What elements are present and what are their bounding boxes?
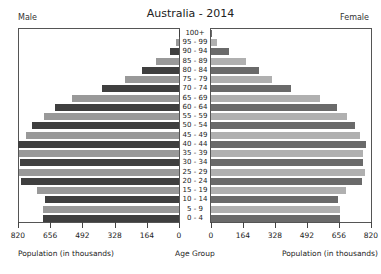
male-label: Male bbox=[18, 13, 37, 22]
male-bar bbox=[44, 113, 179, 120]
female-bar bbox=[211, 113, 347, 120]
age-group-label: 0 - 4 bbox=[180, 214, 210, 223]
age-axis-label: Age Group bbox=[175, 249, 215, 258]
male-tick-label: 492 bbox=[67, 231, 97, 240]
male-tick bbox=[18, 222, 19, 228]
male-tick bbox=[115, 222, 116, 228]
female-bar bbox=[211, 187, 346, 194]
age-group-label: 5 - 9 bbox=[180, 205, 210, 214]
age-group-label: 90 - 94 bbox=[180, 47, 210, 56]
female-bar bbox=[211, 206, 340, 213]
male-bar bbox=[125, 76, 179, 83]
female-tick-label: 492 bbox=[292, 231, 322, 240]
age-group-label: 80 - 84 bbox=[180, 66, 210, 75]
male-bar bbox=[102, 85, 179, 92]
male-bar bbox=[55, 104, 179, 111]
age-group-label: 35 - 39 bbox=[180, 149, 210, 158]
male-x-axis-label: Population (in thousands) bbox=[18, 249, 114, 258]
female-tick-label: 164 bbox=[228, 231, 258, 240]
female-tick-label: 656 bbox=[324, 231, 354, 240]
age-group-label: 30 - 34 bbox=[180, 158, 210, 167]
female-tick bbox=[339, 222, 340, 228]
female-bar bbox=[211, 141, 366, 148]
age-group-label: 100+ bbox=[180, 29, 210, 38]
chart-title: Australia - 2014 bbox=[0, 7, 381, 20]
male-tick bbox=[147, 222, 148, 228]
male-tick-label: 656 bbox=[35, 231, 65, 240]
male-bar bbox=[26, 132, 179, 139]
male-bar bbox=[142, 67, 179, 74]
female-bar bbox=[211, 132, 360, 139]
female-bar bbox=[211, 196, 338, 203]
male-tick-label: 0 bbox=[164, 231, 194, 240]
age-group-label: 85 - 89 bbox=[180, 57, 210, 66]
age-group-label: 55 - 59 bbox=[180, 112, 210, 121]
male-bar bbox=[45, 196, 179, 203]
male-bar bbox=[43, 206, 179, 213]
female-tick-label: 0 bbox=[196, 231, 226, 240]
male-bar bbox=[156, 58, 179, 65]
male-bar bbox=[32, 122, 179, 129]
female-bar bbox=[211, 67, 259, 74]
male-tick bbox=[50, 222, 51, 228]
female-label: Female bbox=[340, 13, 369, 22]
female-bar bbox=[211, 95, 320, 102]
female-bar bbox=[211, 122, 355, 129]
female-tick bbox=[371, 222, 372, 228]
age-group-label: 25 - 29 bbox=[180, 168, 210, 177]
female-tick bbox=[243, 222, 244, 228]
female-tick bbox=[307, 222, 308, 228]
age-group-label: 40 - 44 bbox=[180, 140, 210, 149]
male-tick bbox=[179, 222, 180, 228]
male-bar bbox=[18, 141, 179, 148]
age-group-label: 65 - 69 bbox=[180, 94, 210, 103]
age-group-label: 15 - 19 bbox=[180, 186, 210, 195]
age-group-label: 45 - 49 bbox=[180, 131, 210, 140]
female-bar bbox=[211, 215, 340, 222]
female-tick-label: 328 bbox=[260, 231, 290, 240]
female-bar bbox=[211, 39, 217, 46]
female-bar bbox=[211, 159, 363, 166]
male-tick-label: 164 bbox=[132, 231, 162, 240]
female-bar bbox=[211, 58, 246, 65]
male-tick-label: 820 bbox=[3, 231, 33, 240]
female-bar bbox=[211, 85, 291, 92]
female-bar bbox=[211, 104, 337, 111]
male-bar bbox=[43, 215, 179, 222]
age-group-label: 95 - 99 bbox=[180, 38, 210, 47]
female-bar bbox=[211, 48, 229, 55]
age-group-label: 60 - 64 bbox=[180, 103, 210, 112]
male-bar bbox=[20, 159, 179, 166]
male-bar bbox=[19, 150, 179, 157]
age-group-label: 10 - 14 bbox=[180, 195, 210, 204]
age-group-label: 75 - 79 bbox=[180, 75, 210, 84]
male-bar bbox=[21, 178, 179, 185]
female-x-axis-label: Population (in thousands) bbox=[282, 249, 378, 258]
female-tick bbox=[211, 222, 212, 228]
age-group-label: 70 - 74 bbox=[180, 84, 210, 93]
female-bar bbox=[211, 30, 212, 37]
female-tick-label: 820 bbox=[356, 231, 381, 240]
male-tick bbox=[82, 222, 83, 228]
female-bar bbox=[211, 169, 365, 176]
female-bar bbox=[211, 76, 272, 83]
male-bar bbox=[19, 169, 179, 176]
age-group-label: 20 - 24 bbox=[180, 177, 210, 186]
age-group-label: 50 - 54 bbox=[180, 121, 210, 130]
female-tick bbox=[275, 222, 276, 228]
male-bar bbox=[176, 39, 179, 46]
male-bar bbox=[72, 95, 179, 102]
male-bar bbox=[170, 48, 179, 55]
female-bar bbox=[211, 178, 362, 185]
male-bar bbox=[37, 187, 179, 194]
male-tick-label: 328 bbox=[100, 231, 130, 240]
female-bar bbox=[211, 150, 363, 157]
